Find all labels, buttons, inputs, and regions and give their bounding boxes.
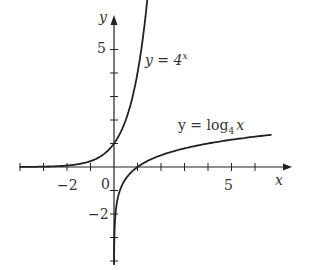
log-curve-label: y = log4x [177, 117, 244, 136]
origin-label: 0 [101, 176, 110, 192]
y-tick-label-minus2: −2 [88, 206, 109, 222]
tick-marks [20, 50, 255, 262]
x-axis-arrow-icon [283, 164, 292, 171]
x-tick-label-minus2: −2 [57, 177, 78, 193]
y-tick-label-5: 5 [97, 40, 106, 56]
x-axis-label: x [275, 172, 283, 188]
exp-curve-label: y = 4x [144, 51, 188, 68]
x-tick-label-5: 5 [224, 177, 233, 193]
log-curve [114, 135, 271, 265]
function-plot: y x 5 −2 −2 0 5 y = 4x y = log4x [0, 0, 309, 270]
y-axis-arrow-icon [111, 15, 118, 25]
y-axis-label: y [98, 9, 108, 25]
exp-curve [20, 0, 150, 167]
